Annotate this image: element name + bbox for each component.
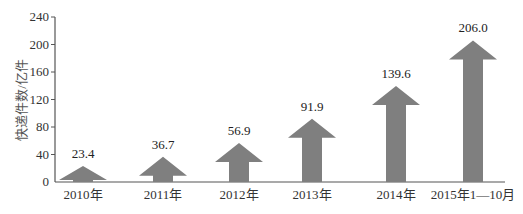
arrow-bar — [139, 157, 187, 182]
value-label: 36.7 — [152, 137, 175, 152]
x-category-label: 2013年 — [293, 187, 332, 202]
x-axis: 2010年2011年2012年2013年2014年2015年1—10月 — [55, 182, 515, 202]
value-label: 56.9 — [228, 123, 251, 138]
y-tick-label: 200 — [30, 37, 50, 52]
x-category-label: 2015年1—10月 — [431, 187, 516, 202]
value-label: 23.4 — [72, 146, 95, 161]
x-category-label: 2014年 — [377, 187, 416, 202]
y-tick-label: 240 — [30, 9, 50, 24]
y-tick-label: 80 — [36, 119, 49, 134]
value-label: 91.9 — [301, 99, 324, 114]
express-delivery-chart: 04080120160200240 2010年2011年2012年2013年20… — [0, 0, 523, 214]
y-tick-label: 120 — [30, 92, 50, 107]
x-category-label: 2010年 — [64, 187, 103, 202]
y-tick-label: 40 — [36, 147, 49, 162]
y-axis: 04080120160200240 — [30, 9, 56, 189]
x-category-label: 2011年 — [144, 187, 183, 202]
x-category-label: 2012年 — [220, 187, 259, 202]
arrow-bars: 23.436.756.991.9139.6206.0 — [59, 20, 497, 182]
value-label: 139.6 — [381, 66, 411, 81]
arrow-bar — [449, 40, 497, 182]
arrow-bar — [59, 166, 107, 182]
arrow-bar — [215, 143, 263, 182]
arrow-bar — [288, 119, 336, 182]
arrow-bar — [372, 86, 420, 182]
y-tick-label: 0 — [43, 174, 50, 189]
value-label: 206.0 — [458, 20, 487, 35]
y-tick-label: 160 — [30, 64, 50, 79]
y-axis-label: 快递件数/亿件 — [14, 59, 29, 141]
